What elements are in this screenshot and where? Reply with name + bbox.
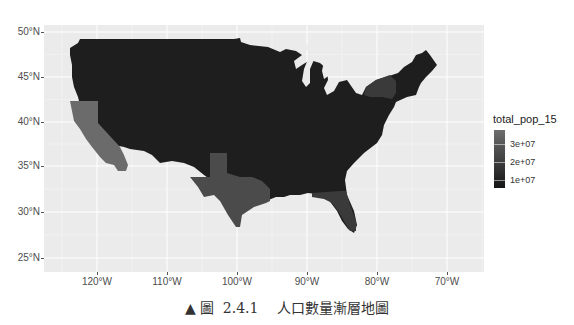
us-map-svg: [44, 25, 484, 272]
y-tick-label-30n: 30°N: [0, 207, 40, 217]
x-tick-label-100w: 100°W: [217, 276, 257, 287]
legend-label-1e7: 1e+07: [510, 176, 535, 185]
x-tick-mark: [167, 272, 168, 275]
x-tick-label-90w: 90°W: [287, 276, 327, 287]
caption-number: 2.4.1: [223, 300, 259, 316]
y-tick-label-25n: 25°N: [0, 253, 40, 263]
legend-title: total_pop_15: [493, 113, 557, 125]
legend-tick: [494, 180, 505, 181]
caption-title: 人口數量漸層地圖: [277, 300, 389, 316]
x-tick-label-80w: 80°W: [357, 276, 397, 287]
legend-tick: [494, 144, 505, 145]
legend-tick: [494, 162, 505, 163]
y-tick-label-45n: 45°N: [0, 72, 40, 82]
x-tick-mark: [237, 272, 238, 275]
x-tick-mark: [307, 272, 308, 275]
x-tick-label-120w: 120°W: [77, 276, 117, 287]
legend: total_pop_15 3e+07 2e+07 1e+07: [493, 113, 557, 125]
x-tick-mark: [377, 272, 378, 275]
choropleth-figure: 50°N 45°N 40°N 35°N 30°N 25°N: [0, 0, 574, 325]
x-tick-label-110w: 110°W: [147, 276, 187, 287]
state-florida: [312, 191, 356, 231]
lake-huron: [322, 61, 332, 79]
y-tick-label-35n: 35°N: [0, 161, 40, 171]
map-plot-panel: [44, 25, 484, 272]
caption-label: 圖: [200, 300, 214, 316]
legend-label-2e7: 2e+07: [510, 158, 535, 167]
legend-label-3e7: 3e+07: [510, 140, 535, 149]
x-tick-label-70w: 70°W: [427, 276, 467, 287]
figure-caption: ▲ 圖 2.4.1 人口數量漸層地圖: [0, 297, 574, 317]
lake-superior: [294, 41, 317, 52]
y-tick-label-50n: 50°N: [0, 27, 40, 37]
state-new-york: [364, 75, 396, 99]
y-tick-label-40n: 40°N: [0, 117, 40, 127]
x-tick-mark: [97, 272, 98, 275]
x-tick-mark: [447, 272, 448, 275]
triangle-icon: ▲: [185, 300, 196, 316]
